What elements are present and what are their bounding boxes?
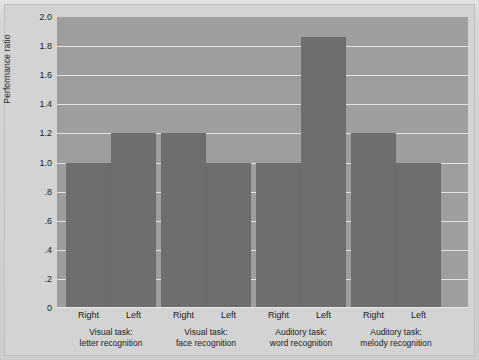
bar xyxy=(351,133,396,308)
x-tick-label: Right xyxy=(351,310,396,320)
x-tick-label: Right xyxy=(161,310,206,320)
y-tick-label: 1.4 xyxy=(11,99,57,109)
y-tick-label: .4 xyxy=(11,245,57,255)
gridline xyxy=(57,46,468,47)
bar xyxy=(301,37,346,308)
bar xyxy=(161,133,206,308)
bar xyxy=(396,163,441,309)
x-group-label-line1: Auditory task: xyxy=(351,327,441,338)
x-group-label: Auditory task:word recognition xyxy=(256,327,346,349)
y-tick-label: .2 xyxy=(11,274,57,284)
gridline xyxy=(57,75,468,76)
gridline xyxy=(57,104,468,105)
x-group-label: Auditory task:melody recognition xyxy=(351,327,441,349)
x-group-label-line2: word recognition xyxy=(256,338,346,349)
y-tick-label: 1.0 xyxy=(11,158,57,168)
x-tick-label: Left xyxy=(206,310,251,320)
x-axis-labels: RightLeftRightLeftRightLeftRightLeftVisu… xyxy=(57,310,468,356)
bar xyxy=(111,133,156,308)
chart-figure: Performance ratio 2.01.81.61.41.21.0.8.6… xyxy=(0,0,479,360)
x-group-label-line1: Visual task: xyxy=(161,327,251,338)
y-tick-label: .6 xyxy=(11,216,57,226)
x-group-label-line2: melody recognition xyxy=(351,338,441,349)
axis-baseline xyxy=(57,307,468,308)
x-tick-label: Left xyxy=(396,310,441,320)
x-group-label-line1: Auditory task: xyxy=(256,327,346,338)
x-group-label-line1: Visual task: xyxy=(66,327,156,338)
x-tick-label: Left xyxy=(111,310,156,320)
bar xyxy=(206,163,251,309)
x-tick-label: Right xyxy=(256,310,301,320)
y-tick-label: 1.8 xyxy=(11,41,57,51)
bar xyxy=(256,163,301,309)
x-tick-label: Left xyxy=(301,310,346,320)
x-tick-label: Right xyxy=(66,310,111,320)
y-axis-ticks: 2.01.81.61.41.21.0.8.6.4.20 xyxy=(0,17,57,308)
y-tick-label: 0 xyxy=(11,303,57,313)
x-group-label-line2: face recognition xyxy=(161,338,251,349)
x-group-label: Visual task:face recognition xyxy=(161,327,251,349)
y-tick-label: 1.2 xyxy=(11,128,57,138)
y-tick-label: .8 xyxy=(11,187,57,197)
bar xyxy=(66,163,111,309)
y-tick-label: 1.6 xyxy=(11,70,57,80)
x-group-label-line2: letter recognition xyxy=(66,338,156,349)
x-group-label: Visual task:letter recognition xyxy=(66,327,156,349)
y-tick-label: 2.0 xyxy=(11,12,57,22)
plot-area xyxy=(57,17,468,308)
